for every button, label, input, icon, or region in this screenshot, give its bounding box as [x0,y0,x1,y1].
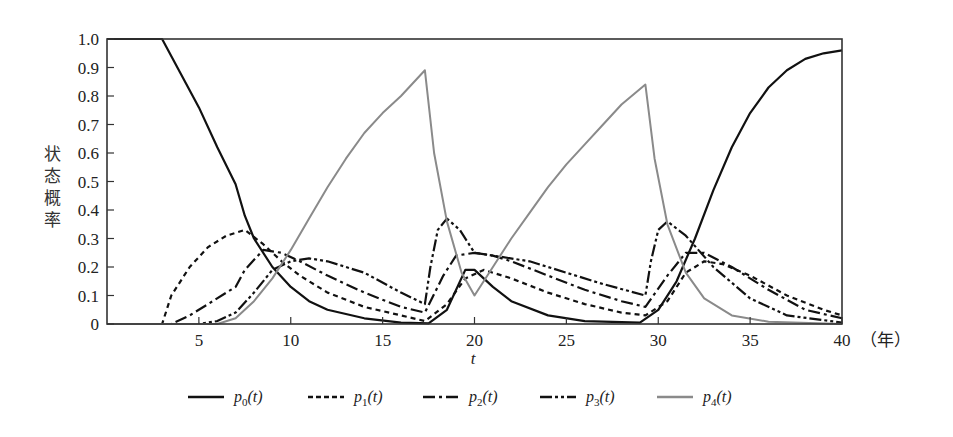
y-axis-label: 状态概率 [44,144,61,230]
plot-frame [107,39,842,324]
x-axis-label: t [471,349,477,368]
y-tick-label: 0.6 [78,144,99,163]
legend-label-p2: p2(t) [468,388,498,408]
legend: p0(t)p1(t)p2(t)p3(t)p4(t) [188,388,732,408]
y-tick-label: 0.9 [78,59,99,78]
y-tick-label: 0.3 [78,230,99,249]
curves [107,39,842,324]
y-tick-label: 0.1 [78,287,99,306]
y-tick-label: 0 [91,315,100,334]
x-tick-label: 15 [374,331,391,350]
legend-label-p1: p1(t) [353,388,383,408]
line-chart: 00.10.20.30.40.50.60.70.80.91.0 51015202… [0,0,953,437]
y-tick-label: 0.5 [78,173,99,192]
y-label-char: 态 [44,166,61,186]
x-tick-label: 5 [195,331,204,350]
x-axis-unit: （年） [860,331,911,350]
legend-label-p4: p4(t) [702,388,732,408]
y-label-char: 概 [44,188,61,208]
x-axis: 510152025303540 [195,317,851,350]
legend-label-p3: p3(t) [585,388,615,408]
series-line-p0 [107,39,842,323]
y-axis: 00.10.20.30.40.50.60.70.80.91.0 [78,30,114,334]
y-tick-label: 0.7 [78,116,100,135]
legend-label-p0: p0(t) [233,388,263,408]
y-tick-label: 0.2 [78,258,99,277]
y-label-char: 率 [44,210,61,230]
x-tick-label: 40 [834,331,851,350]
x-tick-label: 20 [466,331,483,350]
series-line-p2 [107,250,842,324]
x-tick-label: 35 [742,331,759,350]
x-tick-label: 30 [650,331,667,350]
series-line-p4 [107,70,842,324]
series-line-p1 [107,230,842,324]
y-label-char: 状 [44,144,61,164]
x-tick-label: 25 [558,331,575,350]
y-tick-label: 1.0 [78,30,99,49]
y-tick-label: 0.4 [78,201,100,220]
y-tick-label: 0.8 [78,87,99,106]
x-tick-label: 10 [282,331,299,350]
